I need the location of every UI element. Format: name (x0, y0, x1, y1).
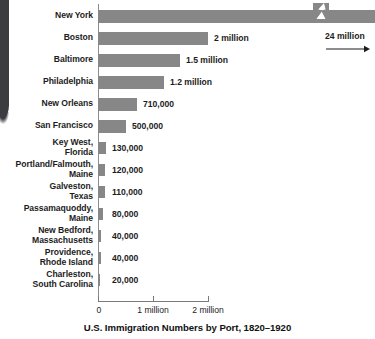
category-label: Philadelphia (0, 77, 93, 87)
chart-row: Baltimore 1.5 million (0, 50, 375, 72)
bar-new-orleans (98, 98, 137, 111)
bar-providence (98, 252, 101, 264)
category-label: Galveston, Texas (0, 182, 93, 201)
bar-charleston (98, 274, 100, 286)
bar-passamaquoddy (98, 208, 103, 220)
value-label: 500,000 (132, 120, 163, 133)
category-label: New Orleans (0, 99, 93, 109)
axis-break-zigzag-icon (313, 3, 329, 19)
category-label: New York (0, 11, 93, 21)
chart-row: San Francisco 500,000 (0, 116, 375, 138)
value-label: 110,000 (112, 186, 143, 199)
chart-row: Providence, Rhode Island 40,000 (0, 248, 375, 270)
bar-philadelphia (98, 76, 164, 89)
category-label: Key West, Florida (0, 138, 93, 157)
bar-san-francisco (98, 120, 126, 133)
value-label: 2 million (214, 32, 249, 45)
x-axis-tick-0 (98, 296, 99, 302)
category-label: Passamaquoddy, Maine (0, 204, 93, 223)
bar-boston (98, 32, 208, 45)
x-axis-tick-label-1m: 1 million (137, 305, 169, 315)
chart-row: Charleston, South Carolina 20,000 (0, 270, 375, 292)
x-axis-tick-label-0: 0 (97, 305, 102, 315)
value-label: 710,000 (143, 98, 174, 111)
value-label: 40,000 (112, 252, 138, 265)
value-label: 120,000 (112, 164, 143, 177)
chart-row: New Bedford, Massachusetts 40,000 (0, 226, 375, 248)
x-axis-tick-1m (153, 296, 154, 302)
chart-row: Philadelphia 1.2 million (0, 72, 375, 94)
chart-row: Boston 2 million (0, 28, 375, 50)
chart-title: U.S. Immigration Numbers by Port, 1820–1… (0, 322, 375, 333)
chart-row: Galveston, Texas 110,000 (0, 182, 375, 204)
value-label: 1.2 million (170, 76, 212, 89)
bar-key-west (98, 142, 106, 154)
chart-row: Passamaquoddy, Maine 80,000 (0, 204, 375, 226)
category-label: Portland/Falmouth, Maine (0, 160, 93, 179)
chart-row: New Orleans 710,000 (0, 94, 375, 116)
bar-new-york (98, 10, 375, 23)
bar-new-bedford (98, 230, 101, 242)
x-axis-tick-label-2m: 2 million (192, 305, 224, 315)
bar-portland-falmouth (98, 164, 105, 176)
chart-row: Key West, Florida 130,000 (0, 138, 375, 160)
x-axis-tick-2m (208, 296, 209, 302)
value-label: 40,000 (112, 230, 138, 243)
value-label: 1.5 million (186, 54, 228, 67)
bar-baltimore (98, 54, 180, 67)
category-label: New Bedford, Massachusetts (0, 226, 93, 245)
category-label: Charleston, South Carolina (0, 270, 93, 289)
value-label: 20,000 (112, 274, 138, 287)
bar-galveston (98, 186, 105, 198)
chart-row: Portland/Falmouth, Maine 120,000 (0, 160, 375, 182)
category-label: San Francisco (0, 121, 93, 131)
value-label: 80,000 (112, 208, 138, 221)
category-label: Baltimore (0, 55, 93, 65)
category-label: Providence, Rhode Island (0, 248, 93, 267)
category-label: Boston (0, 33, 93, 43)
bar-chart: New York 24 million Boston 2 million Bal… (0, 0, 375, 339)
value-label: 130,000 (112, 142, 143, 155)
